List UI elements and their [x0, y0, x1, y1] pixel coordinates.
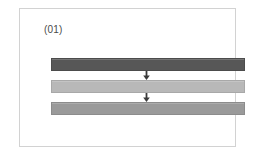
- down-arrow-icon: [143, 71, 150, 80]
- panel-label: (01): [44, 24, 63, 36]
- down-arrow-icon: [143, 93, 150, 102]
- figure-canvas: (01): [0, 0, 253, 156]
- bar-layer-2: [51, 80, 245, 93]
- figure-frame: (01): [19, 8, 236, 147]
- bar-layer-3: [51, 102, 245, 115]
- bar-layer-1: [51, 58, 245, 71]
